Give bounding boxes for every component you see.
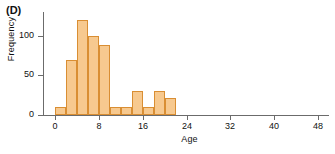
histogram-bar (132, 91, 143, 115)
histogram-bar (121, 107, 132, 115)
x-tick (143, 116, 144, 120)
y-tick (38, 75, 43, 76)
x-tick-label: 40 (262, 121, 286, 131)
x-axis-title-text: Age (181, 134, 198, 144)
plot-area (44, 12, 329, 115)
x-tick-label: 16 (131, 121, 155, 131)
x-tick-label: 8 (87, 121, 111, 131)
histogram-bar (165, 98, 176, 115)
y-tick-label: 0 (0, 109, 34, 119)
histogram-bar (66, 60, 77, 115)
histogram-bar (88, 36, 99, 115)
x-tick (187, 116, 188, 120)
x-tick (318, 116, 319, 120)
histogram-bars (44, 12, 329, 115)
histogram-bar (55, 107, 66, 115)
x-tick (230, 116, 231, 120)
y-tick (38, 36, 43, 37)
histogram-bar (154, 91, 165, 115)
x-tick (274, 116, 275, 120)
histogram-figure: (D) Frequency 050100 081624324048 Age (0, 0, 335, 154)
histogram-bar (99, 45, 110, 115)
x-tick-label: 48 (306, 121, 330, 131)
x-tick (55, 116, 56, 120)
histogram-bar (143, 107, 154, 115)
y-tick-label: 50 (0, 69, 34, 79)
histogram-bar (110, 107, 121, 115)
x-tick-label: 32 (218, 121, 242, 131)
x-tick-label: 0 (43, 121, 67, 131)
x-axis-line (43, 115, 329, 116)
x-tick (99, 116, 100, 120)
histogram-bar (77, 20, 88, 115)
x-tick-label: 24 (175, 121, 199, 131)
y-tick-label: 100 (0, 30, 34, 40)
x-axis-title: Age (0, 134, 335, 144)
